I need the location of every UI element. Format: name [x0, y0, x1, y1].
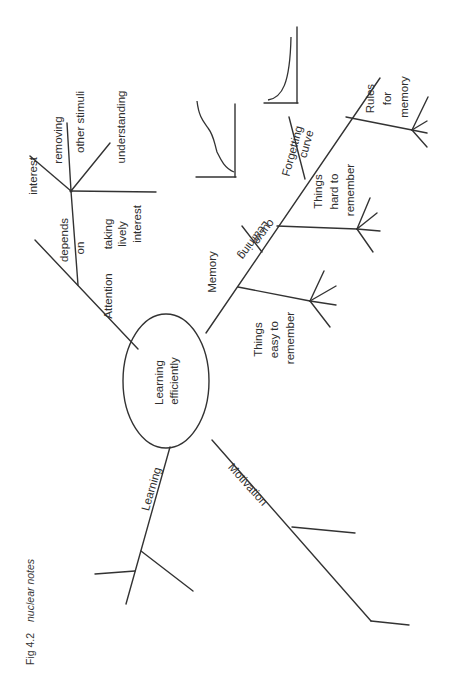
easy-fan-3 [310, 301, 336, 305]
forgetting-curve-graph [264, 27, 298, 103]
learning-curve-plot [197, 101, 234, 172]
easy-fan-4 [310, 301, 330, 327]
learning-sub-line-2 [95, 571, 135, 574]
forgetting-curve-plot [268, 37, 291, 100]
learning-sub-line-1 [141, 551, 193, 591]
attention-label: Attention [102, 273, 114, 318]
hub-dot [69, 189, 72, 192]
branch-attention: Attention depends on interest removing o… [27, 91, 156, 349]
other-stimuli-label: other stimuli [74, 91, 86, 153]
figure-caption: Fig 4.2 nuclear notes [24, 558, 36, 665]
removing-label: removing [52, 116, 64, 163]
depends-on-line [71, 191, 78, 285]
caption-figure-number: Fig 4.2 [24, 633, 36, 665]
center-node: Learning efficiently [123, 314, 209, 448]
removing-line [67, 123, 71, 191]
hard-line [277, 226, 357, 229]
taking-interest-line [71, 191, 156, 192]
branch-motivation: Motivation [212, 440, 409, 625]
branch-learning: Learning [95, 447, 193, 604]
rules-label: Rules for memory [364, 76, 410, 118]
motivation-label: Motivation [226, 461, 270, 508]
attention-line [35, 240, 138, 349]
center-ellipse [123, 314, 209, 448]
interest-label: interest [27, 156, 39, 195]
motivation-sub-line-2 [371, 621, 409, 625]
easy-line [238, 287, 310, 301]
mind-map-diagram: Learning efficiently Attention depends o… [0, 0, 456, 685]
learning-curve-graph [196, 101, 236, 177]
taking-label: taking [102, 219, 114, 250]
memory-label: Memory [206, 251, 218, 293]
hard-fan-4 [357, 229, 373, 252]
center-label: Learning efficiently [153, 357, 180, 405]
caption-title: nuclear notes [24, 558, 36, 622]
depends-label: depends [58, 218, 70, 262]
interest2-label: interest [131, 204, 143, 243]
hard-label: Things hard to remember [312, 164, 356, 217]
rules-line [346, 117, 412, 130]
learning-label: Learning [139, 466, 163, 512]
caption-text: Fig 4.2 nuclear notes [24, 558, 36, 665]
motivation-sub-line-1 [292, 527, 355, 533]
branch-memory: Memory Things easy to remember Learning … [196, 27, 428, 364]
learning-line [126, 447, 170, 604]
on-label: on [74, 242, 86, 255]
hard-fan-3 [357, 229, 380, 231]
easy-label: Things easy to remember [252, 312, 296, 365]
lively-label: lively [116, 221, 128, 247]
understanding-label: understanding [115, 91, 127, 164]
